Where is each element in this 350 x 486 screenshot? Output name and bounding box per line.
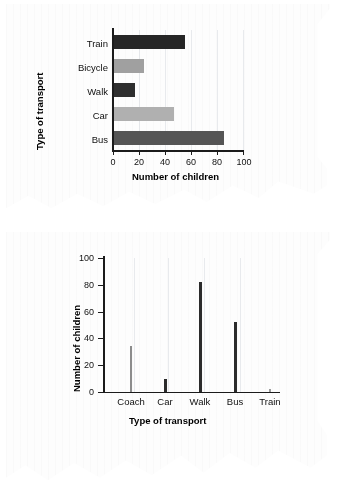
- x-tick: [217, 151, 218, 155]
- paper-sheet-top: Type of transport Train Bicycle Walk Car…: [6, 4, 330, 210]
- x-tick-label-40: 40: [156, 157, 174, 167]
- x-axis-title-children: Number of children: [132, 171, 219, 182]
- bar-coach: [130, 346, 132, 392]
- bar-walk: [199, 282, 202, 392]
- gridline: [204, 258, 205, 392]
- x-axis-line: [103, 392, 280, 393]
- bar-bus: [113, 131, 224, 145]
- bar-car: [164, 379, 167, 392]
- bar-car: [113, 107, 174, 121]
- y-axis-title-transport: Type of transport: [34, 73, 45, 150]
- bar-chart-horizontal: Type of transport Train Bicycle Walk Car…: [6, 4, 330, 210]
- gridline: [134, 258, 135, 392]
- y-tick-label-bus: Bus: [76, 134, 108, 145]
- y-tick-label-20: 20: [74, 360, 94, 370]
- y-tick-label-80: 80: [74, 280, 94, 290]
- y-tick-label-0: 0: [74, 387, 94, 397]
- x-tick-label-0: 0: [104, 157, 122, 167]
- y-axis-title-children: Number of children: [71, 305, 82, 392]
- y-tick-label-bicycle: Bicycle: [64, 62, 108, 73]
- y-tick: [98, 285, 103, 286]
- y-axis-line: [103, 256, 105, 392]
- x-tick: [191, 151, 192, 155]
- x-tick-label-80: 80: [208, 157, 226, 167]
- x-tick-label-car: Car: [145, 396, 185, 407]
- y-tick-label-train: Train: [76, 38, 108, 49]
- x-tick: [139, 151, 140, 155]
- bar-train: [113, 35, 185, 49]
- y-tick-label-40: 40: [74, 333, 94, 343]
- bar-bus: [234, 322, 237, 392]
- paper-sheet-bottom: Number of children 0 20: [6, 232, 330, 480]
- y-tick: [98, 338, 103, 339]
- y-tick: [98, 392, 103, 393]
- gridline: [168, 258, 169, 392]
- y-tick-label-car: Car: [76, 110, 108, 121]
- x-tick-label-20: 20: [130, 157, 148, 167]
- x-tick: [113, 151, 114, 155]
- x-tick: [243, 151, 244, 155]
- y-tick: [98, 258, 103, 259]
- plot-area-horizontal: 0 20 40 60 80 100: [113, 30, 244, 150]
- x-tick-label-60: 60: [182, 157, 200, 167]
- gridline: [240, 258, 241, 392]
- bar-chart-vertical: Number of children 0 20: [6, 232, 330, 480]
- x-tick-label-100: 100: [233, 157, 255, 167]
- x-tick-label-walk: Walk: [180, 396, 220, 407]
- x-axis-line: [112, 150, 244, 152]
- x-tick: [165, 151, 166, 155]
- y-tick-label-walk: Walk: [76, 86, 108, 97]
- y-tick-label-100: 100: [72, 253, 94, 263]
- bar-walk: [113, 83, 135, 97]
- y-axis-line: [112, 28, 114, 152]
- y-tick: [98, 312, 103, 313]
- x-tick-label-bus: Bus: [215, 396, 255, 407]
- plot-area-vertical: 0 20 40 60 80 100 Coach Car Walk Bus Tra…: [104, 258, 280, 392]
- y-tick: [98, 365, 103, 366]
- gridline: [243, 30, 244, 150]
- y-tick-label-60: 60: [74, 307, 94, 317]
- x-axis-title-transport: Type of transport: [129, 415, 206, 426]
- x-tick-label-train: Train: [250, 396, 290, 407]
- bar-bicycle: [113, 59, 144, 73]
